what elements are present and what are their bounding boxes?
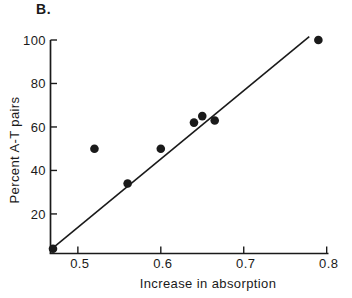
data-point <box>90 144 99 153</box>
y-tick-label: 60 <box>31 120 46 135</box>
data-point <box>210 116 219 125</box>
regression-line <box>53 37 309 248</box>
plot-area: 204060801000.50.60.70.8 <box>0 0 352 298</box>
data-point <box>157 144 166 153</box>
data-point <box>123 179 132 188</box>
data-point <box>198 112 207 121</box>
y-tick-label: 40 <box>31 163 46 178</box>
data-point <box>49 244 58 253</box>
y-tick-label: 20 <box>31 207 46 222</box>
data-point <box>190 118 199 127</box>
scatter-plot-figure: B. Percent A-T pairs Increase in absorpt… <box>0 0 352 298</box>
y-tick-label: 100 <box>23 33 46 48</box>
data-point <box>314 36 323 45</box>
x-tick-label: 0.5 <box>70 256 89 271</box>
x-tick-label: 0.7 <box>236 256 255 271</box>
x-tick-label: 0.6 <box>153 256 172 271</box>
y-tick-label: 80 <box>31 76 46 91</box>
x-tick-label: 0.8 <box>319 256 338 271</box>
